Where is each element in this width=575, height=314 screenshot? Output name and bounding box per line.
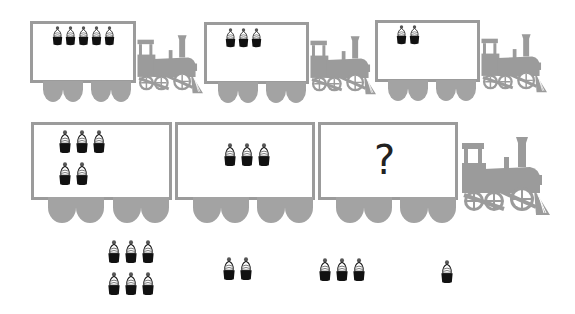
- locomotive-icon: [460, 132, 550, 222]
- cupcake-icon: [124, 272, 138, 296]
- answer-option-1[interactable]: [440, 260, 456, 288]
- cupcake-icon: [107, 272, 121, 296]
- cupcake-icon: [58, 130, 72, 154]
- cupcake-icon: [257, 143, 271, 167]
- cupcake-icon: [141, 240, 155, 264]
- cupcake-icon: [251, 28, 262, 48]
- cupcake-icon: [440, 260, 454, 284]
- locomotive-icon: [480, 27, 547, 101]
- cupcake-icon: [124, 240, 138, 264]
- cupcake-icon: [92, 130, 106, 154]
- cupcake-icon: [78, 26, 89, 46]
- question-mark: ?: [374, 136, 395, 184]
- cupcake-icon: [335, 258, 349, 282]
- locomotive-icon: [309, 29, 376, 103]
- train-car-2-cupcakes: [375, 20, 480, 82]
- answer-option-3[interactable]: [318, 258, 368, 286]
- cupcake-icon: [239, 257, 253, 281]
- cupcake-icon: [318, 258, 332, 282]
- cupcake-icon: [222, 257, 236, 281]
- answer-option-6[interactable]: [106, 240, 158, 302]
- cupcake-icon: [352, 258, 366, 282]
- cupcake-icon: [52, 26, 63, 46]
- answer-option-2[interactable]: [222, 257, 256, 285]
- cupcake-icon: [107, 240, 121, 264]
- cupcake-icon: [91, 26, 102, 46]
- cupcake-icon: [104, 26, 115, 46]
- cupcake-icon: [223, 143, 237, 167]
- cupcake-icon: [75, 162, 89, 186]
- cupcake-icon: [75, 130, 89, 154]
- cupcake-icon: [225, 28, 236, 48]
- cupcake-icon: [240, 143, 254, 167]
- cupcake-icon: [141, 272, 155, 296]
- locomotive-icon: [136, 27, 203, 103]
- cupcake-icon: [65, 26, 76, 46]
- cupcake-icon: [238, 28, 249, 48]
- cupcake-icon: [396, 25, 407, 45]
- cupcake-icon: [409, 25, 420, 45]
- cupcake-icon: [58, 162, 72, 186]
